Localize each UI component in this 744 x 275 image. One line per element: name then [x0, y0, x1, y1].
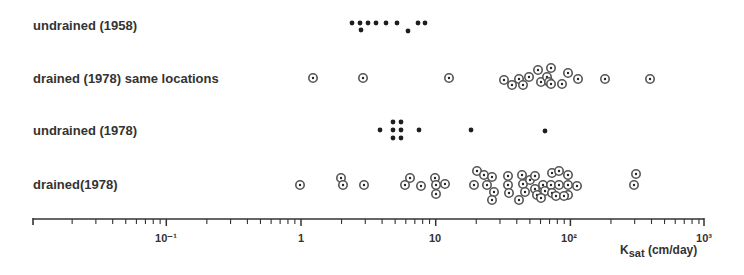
circled-data-point	[525, 73, 533, 81]
circled-data-point	[519, 81, 527, 89]
circled-data-point	[547, 80, 555, 88]
filled-data-point	[543, 129, 548, 134]
circled-data-point	[552, 192, 560, 200]
circled-data-point	[490, 188, 498, 196]
circled-data-point	[632, 170, 640, 178]
tick-label-1: 1	[298, 232, 304, 244]
filled-data-point	[350, 21, 355, 26]
circled-data-point	[505, 189, 513, 197]
filled-data-point	[395, 21, 400, 26]
circled-data-point	[537, 194, 545, 202]
filled-data-point	[391, 120, 396, 125]
filled-data-point	[358, 21, 363, 26]
circled-data-point	[531, 172, 539, 180]
filled-data-point	[423, 21, 428, 26]
filled-data-point	[417, 128, 422, 133]
circled-data-point	[406, 174, 414, 182]
filled-data-point	[366, 21, 371, 26]
circled-data-point	[560, 192, 568, 200]
xlabel-sub: sat	[629, 247, 645, 259]
circled-data-point	[359, 74, 367, 82]
tick-label-10: 10	[429, 232, 441, 244]
x-axis-label: Ksat (cm/day)	[620, 243, 697, 259]
circled-data-point	[547, 64, 555, 72]
circled-data-point	[564, 181, 572, 189]
circled-data-point	[339, 181, 347, 189]
circled-data-point	[432, 190, 440, 198]
circled-data-point	[558, 80, 566, 88]
tick-label-1000: 10³	[696, 232, 712, 244]
circled-data-point	[601, 75, 609, 83]
circled-data-point	[417, 182, 425, 190]
circled-data-point	[504, 172, 512, 180]
circled-data-point	[441, 180, 449, 188]
circled-data-point	[480, 171, 488, 179]
circled-data-point	[515, 196, 523, 204]
filled-data-point	[406, 29, 411, 34]
circled-data-point	[518, 171, 526, 179]
x-axis	[33, 218, 704, 226]
circled-data-point	[555, 167, 563, 175]
circled-data-point	[521, 188, 529, 196]
circled-data-point	[470, 181, 478, 189]
xlabel-unit: (cm/day)	[645, 243, 698, 257]
circled-data-point	[573, 182, 581, 190]
filled-data-point	[391, 136, 396, 141]
circled-data-point	[309, 74, 317, 82]
data-points	[296, 21, 654, 205]
filled-data-point	[469, 128, 474, 133]
circled-data-point	[547, 181, 555, 189]
xlabel-k: K	[620, 243, 629, 257]
tick-label-100: 10²	[561, 232, 577, 244]
circled-data-point	[488, 196, 496, 204]
circled-data-point	[630, 181, 638, 189]
circled-data-point	[483, 181, 491, 189]
circled-data-point	[508, 81, 516, 89]
circled-data-point	[564, 171, 572, 179]
circled-data-point	[445, 74, 453, 82]
circled-data-point	[488, 173, 496, 181]
circled-data-point	[500, 76, 508, 84]
scatter-plot	[0, 0, 744, 275]
filled-data-point	[399, 136, 404, 141]
circled-data-point	[555, 181, 563, 189]
filled-data-point	[416, 21, 421, 26]
circled-data-point	[534, 66, 542, 74]
filled-data-point	[391, 128, 396, 133]
filled-data-point	[359, 28, 364, 33]
circled-data-point	[432, 181, 440, 189]
tick-label-0.1: 10⁻¹	[155, 232, 177, 245]
circled-data-point	[646, 75, 654, 83]
circled-data-point	[504, 181, 512, 189]
filled-data-point	[399, 128, 404, 133]
filled-data-point	[374, 21, 379, 26]
circled-data-point	[296, 181, 304, 189]
filled-data-point	[378, 128, 383, 133]
filled-data-point	[399, 120, 404, 125]
circled-data-point	[574, 75, 582, 83]
circled-data-point	[564, 69, 572, 77]
circled-data-point	[360, 181, 368, 189]
filled-data-point	[384, 21, 389, 26]
